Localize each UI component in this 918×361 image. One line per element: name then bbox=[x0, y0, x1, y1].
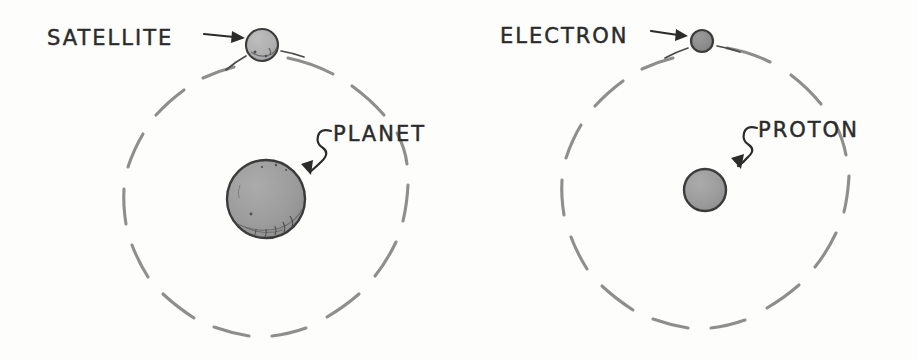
atom-panel: ELECTRON PROTON bbox=[500, 24, 859, 328]
diagram-canvas: SATELLITE PLANET bbox=[0, 0, 918, 361]
figure-root: SATELLITE PLANET bbox=[0, 0, 918, 361]
planet-arrow bbox=[301, 130, 331, 175]
planetary-system-panel: SATELLITE PLANET bbox=[47, 26, 426, 336]
proton-label: PROTON bbox=[758, 118, 859, 142]
electron-arrow bbox=[651, 29, 688, 41]
satellite-label: SATELLITE bbox=[47, 26, 173, 50]
planet bbox=[227, 160, 305, 238]
electron-label: ELECTRON bbox=[500, 24, 629, 48]
planet-label: PLANET bbox=[333, 122, 426, 146]
proton bbox=[684, 169, 726, 211]
satellite bbox=[246, 29, 278, 61]
proton-arrow bbox=[731, 127, 757, 169]
electron bbox=[691, 30, 713, 52]
satellite-arrow bbox=[204, 31, 245, 43]
